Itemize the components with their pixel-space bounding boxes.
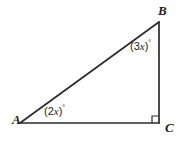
angle-label-b: (3x)°: [130, 39, 151, 52]
vertex-label-c: C: [165, 121, 174, 134]
vertex-label-a: A: [12, 113, 21, 126]
right-angle-square-icon: [152, 116, 159, 123]
triangle-svg: [0, 0, 187, 143]
angle-label-a: (2x)°: [44, 104, 65, 117]
vertex-label-b: B: [158, 4, 167, 17]
angle-b-degree-icon: °: [148, 39, 151, 46]
geometry-figure: A B C (2x)° (3x)°: [0, 0, 187, 143]
angle-a-degree-icon: °: [62, 104, 65, 111]
side-ab-hypotenuse: [20, 22, 159, 123]
